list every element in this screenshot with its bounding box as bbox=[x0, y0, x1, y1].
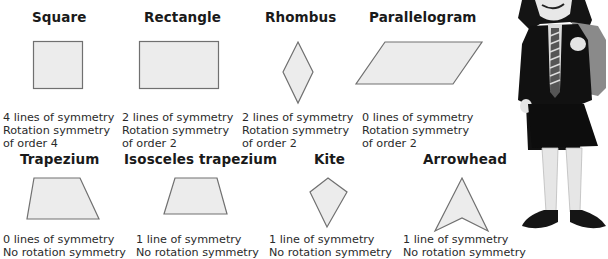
rhombus-rotation: Rotation symmetry bbox=[242, 124, 353, 137]
heading-kite: Kite bbox=[314, 151, 345, 167]
arrowhead-shape bbox=[435, 178, 488, 231]
rectangle-lines: 2 lines of symmetry bbox=[122, 111, 233, 124]
desc-kite: 1 line of symmetry No rotation symmetry bbox=[269, 233, 392, 259]
legs bbox=[542, 148, 558, 212]
rhombus-shape bbox=[283, 42, 313, 103]
desc-isosceles-trapezium: 1 line of symmetry No rotation symmetry bbox=[136, 233, 259, 259]
square-lines: 4 lines of symmetry bbox=[3, 111, 114, 124]
square-rotation: Rotation symmetry bbox=[3, 124, 114, 137]
trapezium-rotation: No rotation symmetry bbox=[3, 246, 126, 259]
desc-square: 4 lines of symmetry Rotation symmetry of… bbox=[3, 111, 114, 150]
rectangle-order: of order 2 bbox=[122, 137, 233, 150]
rectangle-rotation: Rotation symmetry bbox=[122, 124, 233, 137]
schoolgirl-illustration bbox=[500, 0, 608, 259]
heading-trapezium: Trapezium bbox=[20, 151, 99, 167]
heading-isosceles-trapezium: Isosceles trapezium bbox=[124, 151, 277, 167]
desc-rectangle: 2 lines of symmetry Rotation symmetry of… bbox=[122, 111, 233, 150]
tie bbox=[550, 28, 560, 98]
trapezium-shape bbox=[27, 178, 99, 219]
rectangle-shape bbox=[140, 42, 219, 89]
square-order: of order 4 bbox=[3, 137, 114, 150]
parallelogram-lines: 0 lines of symmetry bbox=[362, 111, 473, 124]
shoes bbox=[522, 210, 558, 228]
rhombus-order: of order 2 bbox=[242, 137, 353, 150]
square-shape bbox=[34, 42, 83, 89]
parallelogram-shape bbox=[356, 42, 482, 84]
skirt bbox=[528, 104, 598, 148]
heading-arrowhead: Arrowhead bbox=[423, 151, 507, 167]
isosceles-trapezium-rotation: No rotation symmetry bbox=[136, 246, 259, 259]
kite-shape bbox=[310, 178, 347, 227]
desc-rhombus: 2 lines of symmetry Rotation symmetry of… bbox=[242, 111, 353, 150]
rhombus-lines: 2 lines of symmetry bbox=[242, 111, 353, 124]
kite-lines: 1 line of symmetry bbox=[269, 233, 392, 246]
parallelogram-rotation: Rotation symmetry bbox=[362, 124, 473, 137]
isosceles-trapezium-shape bbox=[164, 178, 227, 214]
trapezium-lines: 0 lines of symmetry bbox=[3, 233, 126, 246]
desc-trapezium: 0 lines of symmetry No rotation symmetry bbox=[3, 233, 126, 259]
kite-rotation: No rotation symmetry bbox=[269, 246, 392, 259]
parallelogram-order: of order 2 bbox=[362, 137, 473, 150]
desc-parallelogram: 0 lines of symmetry Rotation symmetry of… bbox=[362, 111, 473, 150]
isosceles-trapezium-lines: 1 line of symmetry bbox=[136, 233, 259, 246]
